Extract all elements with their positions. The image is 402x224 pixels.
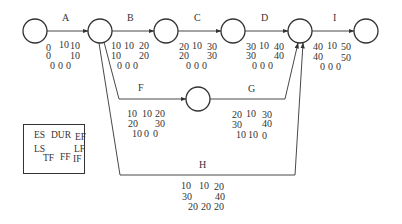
legend-box: ES DUR EF LS LF TF FF IF [23, 124, 85, 174]
b-dur: 10 [124, 41, 134, 51]
h-if: 20 [214, 202, 224, 212]
legend-dur: DUR [51, 130, 71, 140]
d-tf: 0 [252, 61, 257, 71]
legend-if: IF [73, 154, 81, 164]
node-4 [221, 19, 245, 43]
b-lf: 20 [139, 51, 149, 61]
g-dur: 10 [246, 109, 256, 119]
legend-ef: EF [75, 132, 86, 142]
d-ff: 0 [260, 61, 265, 71]
f-if: 0 [153, 129, 158, 139]
activity-b-label: B [127, 13, 134, 23]
a-dur: 10 [59, 40, 69, 50]
node-2 [88, 19, 112, 43]
c-dur: 10 [192, 41, 202, 51]
g-lf: 40 [262, 119, 272, 129]
legend-ff: FF [60, 152, 71, 162]
activity-d-label: D [261, 13, 268, 23]
activity-i-label: I [333, 13, 336, 23]
a-ff: 0 [58, 61, 63, 71]
f-ff: 0 [144, 129, 149, 139]
c-if: 0 [202, 61, 207, 71]
legend-tf: TF [43, 153, 54, 163]
node-1 [23, 19, 47, 43]
b-tf: 0 [117, 61, 122, 71]
a-tf: 0 [50, 61, 55, 71]
a-lf: 10 [70, 51, 80, 61]
h-dur: 10 [199, 181, 209, 191]
c-lf: 30 [207, 51, 217, 61]
i-if: 0 [336, 62, 341, 72]
d-dur: 10 [259, 41, 269, 51]
c-ff: 0 [194, 61, 199, 71]
i-ff: 0 [328, 62, 333, 72]
i-ef: 50 [341, 42, 351, 52]
h-ff: 20 [201, 202, 211, 212]
c-tf: 0 [186, 61, 191, 71]
b-ff: 0 [125, 61, 130, 71]
g-if: 0 [262, 131, 267, 141]
activity-c-label: C [194, 13, 201, 23]
legend-es: ES [34, 130, 45, 140]
i-lf: 50 [341, 53, 351, 63]
i-tf: 0 [320, 62, 325, 72]
b-if: 0 [133, 61, 138, 71]
f-tf: 10 [132, 129, 142, 139]
activity-g-label: G [248, 84, 255, 94]
a-if: 0 [66, 61, 71, 71]
f-dur: 10 [142, 109, 152, 119]
node-5 [288, 19, 312, 43]
node-7 [186, 87, 210, 111]
i-dur: 10 [327, 41, 337, 51]
activity-h-label: H [199, 160, 206, 170]
g-tf: 10 [236, 130, 246, 140]
d-lf: 40 [274, 51, 284, 61]
h-tf: 20 [188, 202, 198, 212]
activity-f-label: F [138, 83, 144, 93]
activity-a-label: A [62, 13, 69, 23]
node-6 [354, 19, 378, 43]
g-ff: 10 [248, 130, 258, 140]
h-es: 10 [181, 181, 191, 191]
d-if: 0 [268, 61, 273, 71]
node-3 [154, 19, 178, 43]
legend-lf: LF [74, 144, 85, 154]
